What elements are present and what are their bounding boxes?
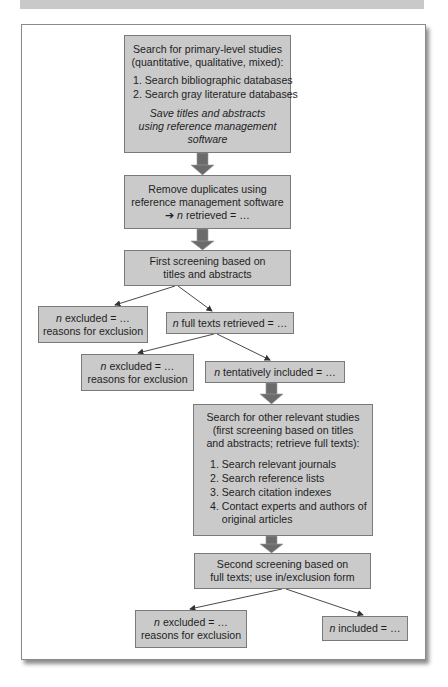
list-item: 3. Search citation indexes [210,485,372,499]
search-primary-title-2: (quantitative, qualitative, mixed): [132,56,284,69]
second-screening-line-1: Second screening based on [217,558,348,571]
search-other-list: 1. Search relevant journals 2. Search re… [194,457,372,525]
exclusion-reasons: reasons for exclusion [43,325,143,338]
search-other-title-2: (first screening based on titles [213,424,354,437]
node-remove-duplicates: Remove duplicates using reference manage… [124,175,291,229]
list-item: 1. Search relevant journals [210,457,372,471]
full-texts-count: full texts retrieved = … [179,317,288,329]
search-primary-note-1: Save titles and abstracts [150,107,265,120]
exclusion-reasons: reasons for exclusion [87,373,187,386]
tentatively-included-count: tentatively included = … [220,366,336,378]
header-band [20,0,424,9]
excluded-count: excluded = … [106,360,174,372]
search-primary-title-1: Search for primary-level studies [133,43,282,56]
node-excluded-full-texts: n excluded = … reasons for exclusion [81,354,194,391]
search-other-title-3: and abstracts; retrieve full texts): [206,437,359,450]
remove-duplicates-line-1: Remove duplicates using [148,183,266,196]
first-screening-line-1: First screening based on [149,255,265,268]
list-item: 1. Search bibliographic databases [133,73,290,87]
list-item: 4. Contact experts and authors of [210,499,372,513]
search-primary-note-3: software [187,133,227,146]
node-tentatively-included: n tentatively included = … [205,361,345,383]
list-item: 2. Search reference lists [210,471,372,485]
search-primary-note-2: using reference management [139,120,277,133]
node-included: n included = … [322,616,408,641]
first-screening-line-2: titles and abstracts [163,268,251,281]
list-item-continuation: original articles [210,513,372,525]
excluded-count: excluded = … [62,312,130,324]
right-arrow-icon: ➔ [165,209,174,221]
excluded-count: excluded = … [160,616,228,628]
node-first-screening: First screening based on titles and abst… [124,250,291,286]
node-excluded-second-screening: n excluded = … reasons for exclusion [135,610,247,648]
node-second-screening: Second screening based on full texts; us… [194,553,371,589]
search-primary-list: 1. Search bibliographic databases 2. Sea… [125,73,290,101]
retrieved-count: retrieved = … [183,209,250,221]
node-search-primary-studies: Search for primary-level studies (quanti… [124,35,291,153]
second-screening-line-2: full texts; use in/exclusion form [210,571,354,584]
node-excluded-first-screening: n excluded = … reasons for exclusion [38,306,148,343]
node-full-texts-retrieved: n full texts retrieved = … [166,312,294,334]
search-other-title-1: Search for other relevant studies [206,411,359,424]
node-search-other-studies: Search for other relevant studies (first… [193,404,373,536]
remove-duplicates-line-2: reference management software [131,196,284,209]
remove-duplicates-result: ➔ n retrieved = … [165,209,250,222]
list-item: 2. Search gray literature databases [133,87,290,101]
exclusion-reasons: reasons for exclusion [141,629,241,642]
included-count: included = … [335,622,400,634]
